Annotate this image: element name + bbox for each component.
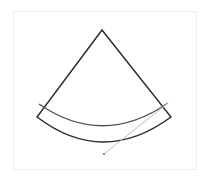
sector-diagram: [0, 0, 208, 180]
pointer-dot: [103, 153, 105, 155]
pointer-line: [104, 103, 168, 154]
inner-arc: [39, 103, 168, 126]
